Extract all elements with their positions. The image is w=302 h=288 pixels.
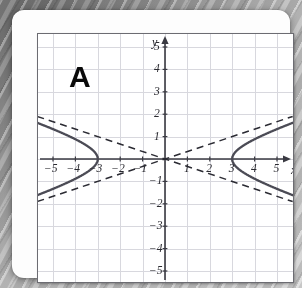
y-axis-label: y: [152, 36, 157, 48]
x-tick-label: −5: [44, 163, 58, 175]
x-tick-label: 3: [229, 163, 235, 175]
x-tick-label: 4: [251, 163, 257, 175]
y-tick-label: −5: [149, 265, 163, 277]
panel-label-a: A: [69, 62, 91, 92]
x-tick-label: −4: [66, 163, 80, 175]
y-tick-label: 3: [154, 86, 160, 98]
graph-plot-area: −5−4−3−2−11234554321−1−2−3−4−5 A x y: [37, 33, 294, 283]
x-tick-label: −3: [89, 163, 103, 175]
x-axis-label: x: [291, 164, 294, 176]
x-tick-label: 1: [184, 163, 190, 175]
x-tick-label: 2: [206, 163, 212, 175]
y-tick-label: 1: [154, 131, 160, 143]
x-tick-label: −2: [111, 163, 125, 175]
figure-card: −5−4−3−2−11234554321−1−2−3−4−5 A x y: [12, 10, 290, 278]
y-tick-label: −4: [149, 243, 163, 255]
y-tick-label: −3: [149, 220, 163, 232]
y-tick-label: −2: [149, 198, 163, 210]
x-tick-label: −1: [134, 163, 148, 175]
y-tick-label: −1: [149, 175, 163, 187]
y-tick-label: 2: [154, 108, 160, 120]
x-tick-label: 5: [274, 163, 280, 175]
y-tick-label: 4: [154, 63, 160, 75]
